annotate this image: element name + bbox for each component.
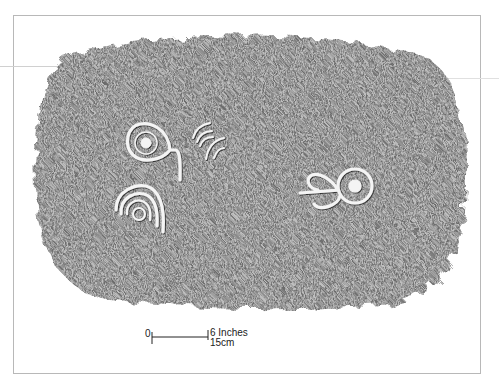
scale-cm-label: 15cm xyxy=(210,338,234,348)
scale-bar xyxy=(152,330,208,344)
petroglyph-stone xyxy=(0,0,499,391)
scale-zero-label: 0 xyxy=(145,329,151,339)
